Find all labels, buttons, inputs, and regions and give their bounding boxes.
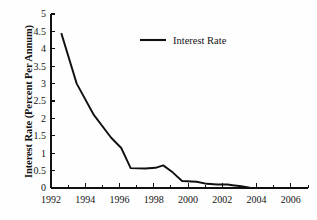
chart-plot-area: 00.511.522.533.544.55 199219941996199820…	[0, 0, 317, 220]
y-tick-label: 3	[41, 78, 46, 89]
y-tick-label: 0.5	[34, 165, 47, 176]
y-tick-label: 4	[41, 43, 46, 54]
y-tick-label: 5	[41, 8, 46, 19]
y-tick-label: 4.5	[34, 26, 47, 37]
series-line-interest-rate	[61, 33, 308, 188]
chart-legend: Interest Rate	[140, 35, 227, 46]
x-tick-label: 1996	[110, 194, 130, 205]
legend-label-interest-rate: Interest Rate	[173, 35, 227, 46]
x-tick-label: 2002	[212, 194, 232, 205]
x-tick-label: 2004	[247, 194, 267, 205]
y-tick-label: 2	[41, 113, 46, 124]
y-tick-label: 1.5	[34, 130, 47, 141]
y-tick-label: 2.5	[34, 95, 47, 106]
x-tick-label: 2006	[281, 194, 301, 205]
y-axis-tick-labels: 00.511.522.533.544.55	[34, 8, 47, 193]
data-series-group	[61, 33, 308, 188]
x-axis-tick-labels: 19921994199619982000200220042006	[41, 194, 301, 205]
y-tick-label: 1	[41, 148, 46, 159]
y-tick-label: 3.5	[34, 61, 47, 72]
x-tick-label: 1998	[144, 194, 164, 205]
x-tick-label: 1992	[41, 194, 61, 205]
x-tick-label: 1994	[75, 194, 95, 205]
x-tick-label: 2000	[178, 194, 198, 205]
interest-rate-chart: Interest Rate (Percent Per Annum) 00.511…	[0, 0, 317, 220]
y-tick-label: 0	[41, 182, 46, 193]
